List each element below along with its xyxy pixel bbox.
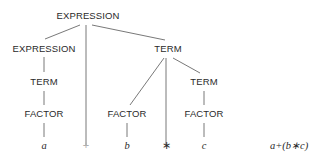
operator-plus: + <box>83 140 89 151</box>
node-left-factor: FACTOR <box>25 108 64 119</box>
node-inner-term: TERM <box>190 76 217 87</box>
node-left-term: TERM <box>30 76 57 87</box>
node-inner-factor: FACTOR <box>185 108 224 119</box>
edge-right-term-inner-term <box>173 58 200 73</box>
edge-root-right-term <box>92 25 165 40</box>
expression-caption: a+(b∗c) <box>270 140 308 151</box>
parse-tree-diagram: EXPRESSION EXPRESSION TERM FACTOR a + TE… <box>0 0 315 158</box>
node-root-expression: EXPRESSION <box>57 10 120 21</box>
leaf-c: c <box>202 140 207 151</box>
leaf-b: b <box>124 140 129 151</box>
edge-right-term-mid-factor <box>130 58 164 105</box>
operator-times: ∗ <box>162 140 171 151</box>
leaf-a: a <box>41 140 46 151</box>
edge-root-left-expression <box>45 25 80 39</box>
node-mid-factor: FACTOR <box>108 108 147 119</box>
node-left-expression: EXPRESSION <box>13 43 76 54</box>
node-right-term: TERM <box>154 43 181 54</box>
